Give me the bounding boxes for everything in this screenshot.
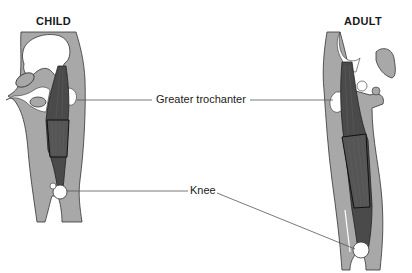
adult-title: ADULT [344, 15, 382, 27]
child-muscle-belly [47, 120, 69, 157]
adult-hip-loop-1 [357, 81, 367, 91]
diagram-canvas [0, 0, 412, 273]
knee-leader-right [217, 193, 355, 249]
knee-label: Knee [190, 184, 216, 196]
child-patella [50, 183, 56, 189]
adult-knee-joint [353, 242, 369, 258]
child-pelvic-oval-2 [30, 97, 46, 107]
adult-hip-loop-2 [372, 87, 380, 95]
child-leg [6, 32, 85, 222]
adult-leg [323, 32, 395, 270]
child-title: CHILD [36, 15, 71, 27]
leader-lines [67, 100, 355, 249]
greater-trochanter-label: Greater trochanter [156, 93, 246, 105]
adult-pelvic-oval [376, 49, 395, 78]
